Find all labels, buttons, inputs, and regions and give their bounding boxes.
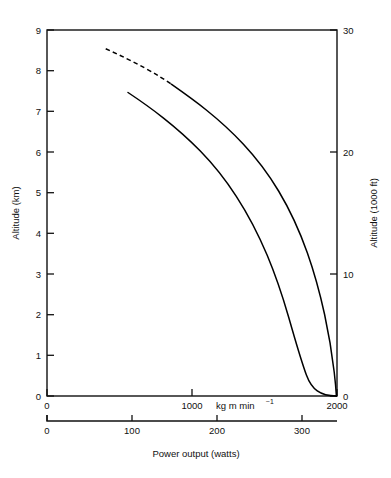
right-tick-label-10: 10	[343, 269, 354, 280]
left-tick-label-5: 5	[36, 187, 41, 198]
watts-tick-label-0: 0	[44, 425, 49, 436]
bottom-primary-axis-unit: kg m min −1	[216, 398, 274, 412]
right-axis-ticks	[330, 30, 337, 396]
left-tick-label-8: 8	[36, 65, 41, 76]
left-tick-label-0: 0	[36, 391, 41, 402]
right-axis-tick-labels: 0 10 20 30	[343, 25, 354, 402]
right-tick-label-30: 30	[343, 25, 354, 36]
bottom-primary-tick-label-1000: 1000	[181, 400, 202, 411]
upper-curve-dashed-segment	[106, 49, 172, 85]
left-tick-label-9: 9	[36, 25, 41, 36]
kg-m-min-unit-exponent: −1	[266, 398, 274, 405]
watts-tick-label-100: 100	[124, 425, 140, 436]
left-tick-label-2: 2	[36, 309, 41, 320]
left-axis-tick-labels: 0 1 2 3 4 5 6 7 8 9	[36, 25, 41, 402]
watts-tick-label-300: 300	[294, 425, 310, 436]
watts-tick-label-200: 200	[209, 425, 225, 436]
left-axis-ticks	[47, 30, 54, 396]
x-axis-title: Power output (watts)	[152, 448, 239, 459]
bottom-secondary-axis-ticks	[47, 415, 302, 421]
left-tick-label-4: 4	[36, 228, 41, 239]
bottom-secondary-axis-line	[47, 415, 337, 421]
plot-frame	[47, 30, 337, 396]
power-output-altitude-chart: 0 1 2 3 4 5 6 7 8 9 Altitude (km) 0 10 2…	[0, 0, 391, 478]
left-tick-label-3: 3	[36, 269, 41, 280]
left-tick-label-1: 1	[36, 350, 41, 361]
kg-m-min-unit-label: kg m min	[216, 400, 255, 411]
data-curves	[106, 49, 337, 396]
right-tick-label-20: 20	[343, 147, 354, 158]
bottom-primary-tick-label-0: 0	[44, 400, 49, 411]
upper-curve-solid-segment	[171, 84, 336, 396]
right-axis-title: Altitude (1000 ft)	[368, 178, 379, 248]
bottom-primary-axis-tick-labels: 0 1000 2000	[44, 400, 347, 411]
left-tick-label-7: 7	[36, 106, 41, 117]
bottom-secondary-axis-tick-labels: 0 100 200 300	[44, 425, 310, 436]
left-axis-title: Altitude (km)	[10, 186, 21, 239]
left-tick-label-6: 6	[36, 147, 41, 158]
bottom-primary-axis-ticks	[47, 389, 337, 396]
chart-figure: 0 1 2 3 4 5 6 7 8 9 Altitude (km) 0 10 2…	[0, 0, 391, 478]
lower-curve	[128, 93, 336, 397]
bottom-primary-tick-label-2000: 2000	[326, 400, 347, 411]
